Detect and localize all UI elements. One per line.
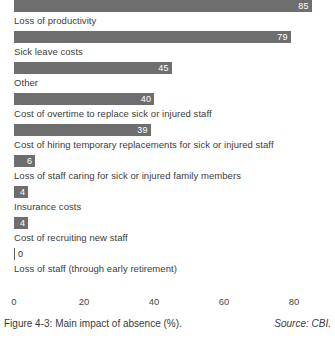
bar-value-label: 79 [277,33,290,42]
x-axis-tick: 20 [79,296,90,307]
bar-row: 4Cost of recruiting new staff [0,217,335,248]
x-axis-tick: 60 [219,296,230,307]
bar-category-label: Cost of recruiting new staff [14,232,335,243]
bar-value-label: 85 [298,2,311,11]
bar-track: 39 [14,124,335,136]
bar-category-label: Loss of staff (through early retirement) [14,263,335,274]
caption-title: Figure 4-3: Main impact of absence (%). [4,318,182,330]
bar-category-label: Sick leave costs [14,46,335,57]
bar-value-label: 45 [158,64,171,73]
bar-track: 85 [14,0,335,12]
bar-row: 4Insurance costs [0,186,335,217]
bar: 4 [14,217,28,229]
bar-value-label: 4 [20,188,28,197]
bar-track: 0 [14,248,335,260]
bar-track: 4 [14,186,335,198]
bar-track: 40 [14,93,335,105]
bar-track: 4 [14,217,335,229]
x-axis-tick: 80 [289,296,300,307]
bar-row: 85Loss of productivity [0,0,335,31]
bar-value-label: 6 [27,157,35,166]
bar-value-label: 4 [20,219,28,228]
bar-row: 6Loss of staff caring for sick or injure… [0,155,335,186]
bar-row: 0Loss of staff (through early retirement… [0,248,335,279]
figure-caption: Figure 4-3: Main impact of absence (%). … [0,318,335,336]
bar: 6 [14,155,35,167]
bar: 0 [14,248,15,260]
bar-category-label: Cost of hiring temporary replacements fo… [14,139,335,150]
bar-value-label: 0 [14,250,23,259]
bar-category-label: Insurance costs [14,201,335,212]
figure-container: 85Loss of productivity79Sick leave costs… [0,0,335,338]
bar-value-label: 40 [141,95,154,104]
x-axis-tick: 0 [11,296,16,307]
bar: 79 [14,31,291,43]
bar-row: 39Cost of hiring temporary replacements … [0,124,335,155]
bar: 4 [14,186,28,198]
x-axis: 020406080 [0,296,335,312]
bar-row: 40Cost of overtime to replace sick or in… [0,93,335,124]
bar-row: 79Sick leave costs [0,31,335,62]
bar-category-label: Loss of staff caring for sick or injured… [14,170,335,181]
bar-track: 6 [14,155,335,167]
bar-category-label: Cost of overtime to replace sick or inju… [14,108,335,119]
bar: 40 [14,93,154,105]
caption-source: Source: CBI. [274,318,331,330]
bar-category-label: Loss of productivity [14,15,335,26]
bar-row: 45Other [0,62,335,93]
bar: 39 [14,124,151,136]
bar: 85 [14,0,312,12]
x-axis-tick: 40 [149,296,160,307]
bar-value-label: 39 [137,126,150,135]
bar: 45 [14,62,172,74]
bar-track: 45 [14,62,335,74]
bar-chart-plot-area: 85Loss of productivity79Sick leave costs… [0,0,335,300]
bar-category-label: Other [14,77,335,88]
bar-track: 79 [14,31,335,43]
